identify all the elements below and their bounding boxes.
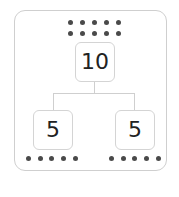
dot [68, 31, 73, 36]
dot [156, 156, 161, 161]
dot [68, 20, 73, 25]
dot [144, 156, 149, 161]
dot [109, 156, 114, 161]
dot [116, 20, 121, 25]
whole-value: 10 [81, 51, 109, 73]
dot [92, 31, 97, 36]
dot [73, 156, 78, 161]
part-value-left: 5 [46, 119, 60, 141]
dot [132, 156, 137, 161]
dot [92, 20, 97, 25]
dot [80, 20, 85, 25]
dot [80, 31, 85, 36]
dot [26, 156, 31, 161]
dot [49, 156, 54, 161]
dot [38, 156, 43, 161]
dot [121, 156, 126, 161]
part-value-right: 5 [128, 119, 142, 141]
whole-box: 10 [75, 42, 115, 82]
part-box-right: 5 [115, 110, 155, 150]
connector-right [134, 93, 135, 110]
connector-left [53, 93, 54, 110]
part-box-left: 5 [33, 110, 73, 150]
connector-bar [53, 93, 135, 94]
dot [104, 31, 109, 36]
dot [116, 31, 121, 36]
dot [104, 20, 109, 25]
dot [61, 156, 66, 161]
